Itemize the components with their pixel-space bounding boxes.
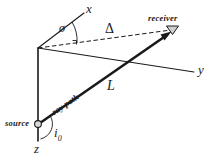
phi-angle-label: ø [59, 22, 65, 34]
incidence-angle-label: i0 [54, 126, 62, 143]
receiver-label: receiver [148, 14, 177, 23]
incidence-angle-subscript: 0 [58, 134, 62, 143]
delta-distance-label: Δ [105, 22, 114, 36]
source-label: source [5, 119, 29, 128]
source-marker [35, 121, 42, 128]
y-axis-line [38, 48, 194, 72]
x-axis-label: x [86, 2, 92, 15]
z-axis-label: z [34, 142, 39, 155]
phi-angle-arc [72, 22, 77, 43]
ray-path-diagram: x y z ø Δ L i0 ray path source receiver [0, 0, 211, 165]
y-axis-label: y [198, 63, 204, 76]
ray-length-label: L [107, 79, 115, 93]
